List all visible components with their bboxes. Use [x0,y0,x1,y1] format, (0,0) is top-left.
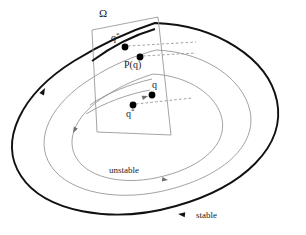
point-q-star-top [122,44,129,51]
arrow-unstable-mid-icon [162,177,169,182]
arrow-unstable-left-icon [71,127,78,134]
phase-portrait-diagram [0,0,306,235]
label-q-star-bottom: q* [126,109,135,119]
label-q-star-bottom-superscript: * [131,107,135,115]
arrow-stable-bottom-icon [178,211,186,217]
label-unstable: unstable [109,166,139,175]
label-q: q [152,80,157,90]
label-stable: stable [196,211,217,220]
point-q [149,92,156,99]
label-p-of-q: P(q) [124,60,141,70]
figure-canvas: Ω q* P(q) q q* unstable stable [0,0,306,235]
label-omega: Ω [99,8,107,19]
label-q-star-top: q* [111,33,120,43]
label-q-star-top-superscript: * [116,31,120,39]
